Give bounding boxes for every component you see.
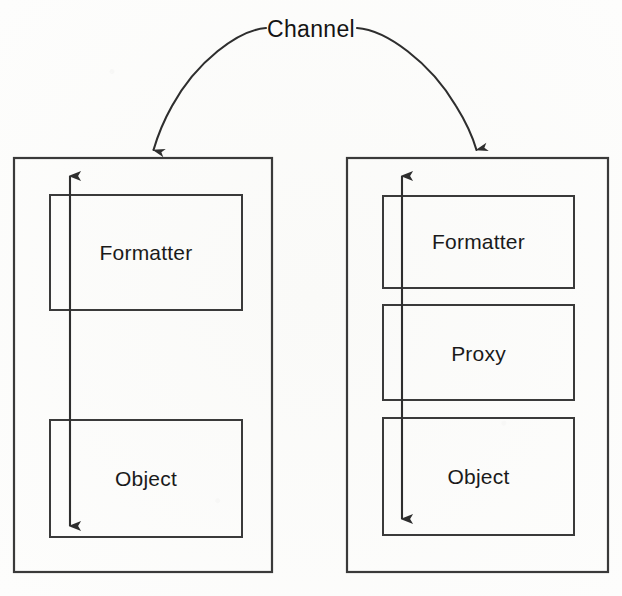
- left-object-label: Object: [50, 468, 242, 489]
- right-formatter-label: Formatter: [383, 231, 574, 252]
- left-participant-outer-box: [14, 158, 272, 572]
- channel-arc-left: [154, 28, 267, 150]
- left-formatter-label: Formatter: [50, 242, 242, 263]
- channel-arc-right: [357, 28, 477, 150]
- right-participant-outer-box: [347, 158, 608, 572]
- channel-label: Channel: [0, 18, 622, 41]
- diagram-vector-layer: [0, 0, 622, 596]
- right-proxy-label: Proxy: [383, 343, 574, 364]
- right-object-label: Object: [383, 466, 574, 487]
- diagram-canvas: Channel Formatter Object Formatter Proxy…: [0, 0, 622, 596]
